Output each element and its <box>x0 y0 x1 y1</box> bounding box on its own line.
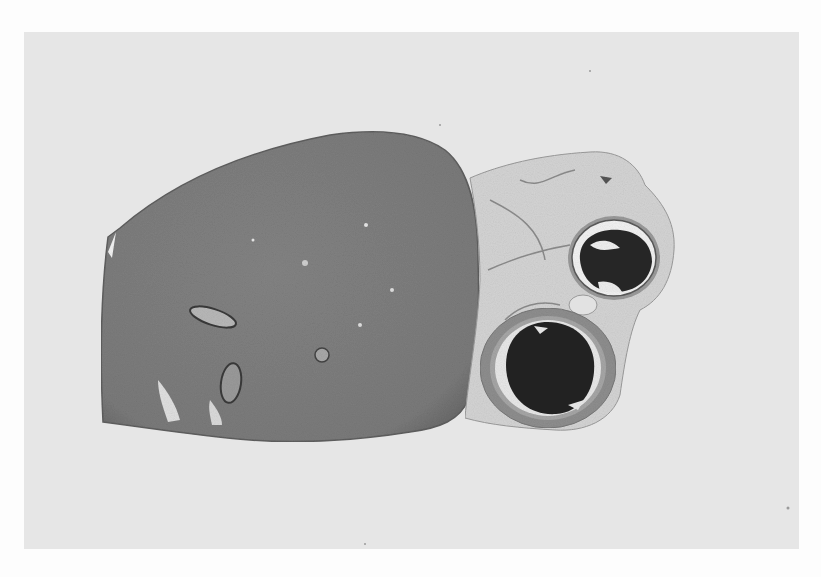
micrograph-panel <box>24 32 799 549</box>
tissue-section-illustration <box>24 32 799 549</box>
upper-vessel-with-thrombus <box>568 216 660 300</box>
lower-vessel-with-thrombus <box>480 308 616 428</box>
main-tissue-lobe <box>101 132 478 442</box>
